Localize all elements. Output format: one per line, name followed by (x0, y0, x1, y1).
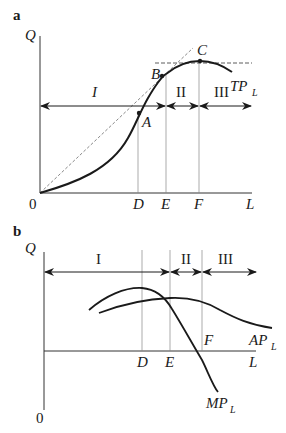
panel-a-letter: a (13, 7, 21, 23)
tp-label: TP (230, 78, 248, 94)
production-stages-diagram: a Q A B C TP L I II III 0 D E (0, 0, 286, 433)
panel-a: a Q A B C TP L I II III 0 D E (13, 7, 258, 212)
panel-b-y-axis-label: Q (25, 240, 36, 256)
point-a-label: A (141, 114, 152, 130)
ap-curve (99, 298, 272, 328)
panel-b-letter: b (13, 223, 21, 239)
stage-i-label: I (91, 84, 98, 100)
point-c (198, 59, 202, 63)
panel-a-x-axis-label: L (245, 196, 254, 212)
b-stage-ii-label: II (181, 251, 191, 267)
mp-subscript: L (229, 404, 236, 415)
tick-d: D (132, 196, 144, 212)
b-tick-d: D (136, 354, 148, 370)
panel-b: b Q I II III F AP L MP L D E L 0 (13, 223, 277, 426)
b-tick-e: E (164, 354, 174, 370)
panel-b-x-axis-label: L (248, 354, 257, 370)
tp-subscript: L (251, 87, 258, 98)
ap-label: AP (248, 332, 267, 348)
point-b-label: B (151, 66, 160, 82)
tp-curve (40, 61, 232, 193)
ap-subscript: L (270, 341, 277, 352)
panel-a-y-axis-label: Q (25, 27, 36, 43)
stage-iii-label: III (214, 84, 229, 100)
panel-b-point-f: F (203, 332, 214, 348)
panel-a-origin: 0 (29, 196, 37, 212)
point-b (160, 74, 164, 78)
stage-ii-label: II (176, 84, 186, 100)
mp-curve (89, 288, 218, 392)
mp-label: MP (205, 395, 228, 411)
b-stage-i-label: I (96, 251, 101, 267)
tick-e: E (160, 196, 170, 212)
point-c-label: C (197, 42, 208, 58)
b-stage-iii-label: III (218, 251, 233, 267)
point-a (137, 111, 141, 115)
panel-b-origin: 0 (36, 410, 44, 426)
tick-f: F (193, 196, 204, 212)
